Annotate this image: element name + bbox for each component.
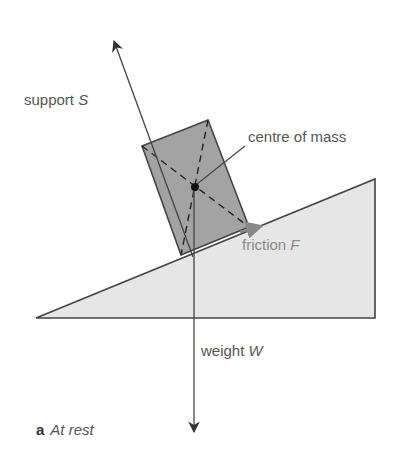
weight-label-text: weight	[201, 342, 244, 359]
centre-of-mass-label: centre of mass	[248, 128, 346, 145]
support-label: support S	[24, 91, 88, 108]
centre-of-mass-label-text: centre of mass	[248, 128, 346, 145]
support-symbol: S	[78, 91, 88, 108]
figure-caption: aAt rest	[36, 421, 94, 438]
weight-symbol: W	[249, 342, 263, 359]
friction-label-text: friction	[242, 236, 286, 253]
weight-label: weight W	[201, 342, 263, 359]
friction-symbol: F	[290, 236, 299, 253]
centre-of-mass-dot	[191, 183, 199, 191]
caption-letter: a	[36, 421, 44, 438]
caption-text: At rest	[50, 421, 93, 438]
friction-label: friction F	[242, 236, 300, 253]
support-label-text: support	[24, 91, 74, 108]
inclined-plane-diagram	[0, 0, 400, 468]
